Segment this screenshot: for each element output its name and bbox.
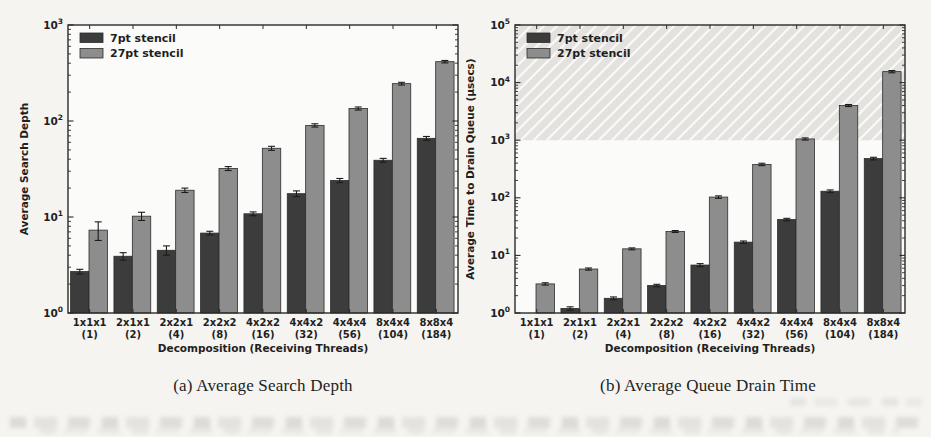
y-tick-label: 101	[490, 247, 510, 261]
x-tick-label: 4x4x2	[289, 317, 323, 328]
legend-swatch	[527, 49, 550, 59]
bar-7pt-stencil-8x4x4	[821, 191, 839, 313]
y-axis-label: Average Time to Drain Queue (µsecs)	[466, 58, 476, 279]
x-tick-label: 2x2x1	[606, 317, 640, 328]
y-tick-label: 101	[43, 209, 63, 223]
caption-b: (b) Average Queue Drain Time	[485, 373, 931, 399]
x-tick-label: 8x8x4	[419, 317, 453, 328]
x-tick-sublabel: (16)	[698, 329, 721, 340]
x-axis-label: Decomposition (Receiving Threads)	[158, 342, 368, 354]
x-tick-label: 2x2x2	[203, 317, 237, 328]
bar-7pt-stencil-2x2x2	[201, 233, 219, 313]
x-tick-sublabel: (184)	[421, 329, 451, 340]
y-axis-label: Average Search Depth	[18, 103, 30, 235]
bar-27pt-stencil-2x2x2	[219, 169, 237, 313]
x-tick-label: 2x1x1	[563, 317, 597, 328]
x-tick-sublabel: (4)	[168, 329, 184, 340]
bar-27pt-stencil-4x4x2	[753, 164, 771, 313]
bar-27pt-stencil-4x4x4	[796, 139, 814, 313]
x-tick-sublabel: (56)	[338, 329, 361, 340]
legend-swatch	[527, 33, 550, 43]
chart-a-canvas: 1001011021031x1x1(1)2x1x1(2)2x2x1(4)2x2x…	[0, 0, 466, 372]
legend-label: 27pt stencil	[110, 47, 183, 60]
bar-27pt-stencil-8x8x4	[883, 72, 901, 313]
bar-7pt-stencil-8x8x4	[417, 138, 435, 313]
bar-7pt-stencil-2x2x1	[604, 298, 622, 313]
bar-7pt-stencil-4x2x2	[244, 214, 262, 313]
x-tick-label: 2x2x1	[159, 317, 193, 328]
legend-label: 27pt stencil	[557, 47, 630, 60]
x-tick-label: 8x4x4	[376, 317, 410, 328]
bar-7pt-stencil-4x4x4	[778, 220, 796, 313]
x-tick-label: 4x2x2	[693, 317, 727, 328]
x-tick-label: 8x8x4	[866, 317, 900, 328]
bar-27pt-stencil-4x4x2	[306, 125, 324, 313]
bar-7pt-stencil-1x1x1	[71, 272, 89, 313]
scan-bleedthrough-smudge	[790, 398, 922, 406]
chart-b-canvas: 1001011021031041051x1x1(1)2x1x1(2)2x2x1(…	[466, 0, 931, 372]
bar-7pt-stencil-2x2x1	[157, 250, 175, 313]
scanned-paper-figure: 1001011021031x1x1(1)2x1x1(2)2x2x1(4)2x2x…	[0, 0, 931, 437]
bar-27pt-stencil-2x2x1	[623, 249, 641, 313]
x-tick-label: 2x2x2	[650, 317, 684, 328]
legend-swatch	[80, 33, 103, 43]
bar-7pt-stencil-8x8x4	[864, 159, 882, 313]
bar-7pt-stencil-2x1x1	[114, 256, 132, 313]
bar-27pt-stencil-1x1x1	[536, 284, 554, 313]
y-tick-label: 104	[490, 75, 510, 89]
y-tick-label: 102	[490, 190, 510, 204]
bar-7pt-stencil-2x2x2	[648, 286, 666, 313]
y-tick-label: 100	[43, 305, 63, 319]
bar-7pt-stencil-4x2x2	[691, 265, 709, 313]
bar-7pt-stencil-4x4x2	[734, 242, 752, 313]
x-tick-label: 4x2x2	[246, 317, 280, 328]
x-tick-label: 8x4x4	[823, 317, 857, 328]
chart-a-average-search-depth: 1001011021031x1x1(1)2x1x1(2)2x2x1(4)2x2x…	[0, 0, 466, 372]
x-tick-label: 4x4x2	[736, 317, 770, 328]
x-tick-sublabel: (16)	[251, 329, 274, 340]
caption-a: (a) Average Search Depth	[38, 373, 488, 399]
bar-27pt-stencil-4x2x2	[709, 197, 727, 313]
x-tick-sublabel: (32)	[295, 329, 318, 340]
x-tick-sublabel: (184)	[868, 329, 898, 340]
bar-27pt-stencil-2x2x1	[176, 190, 194, 313]
x-tick-sublabel: (2)	[572, 329, 588, 340]
x-tick-label: 1x1x1	[520, 317, 554, 328]
bar-27pt-stencil-8x8x4	[436, 62, 454, 313]
x-tick-label: 2x1x1	[116, 317, 150, 328]
chart-b-queue-drain-time: 1001011021031041051x1x1(1)2x1x1(2)2x2x1(…	[466, 0, 931, 372]
x-tick-sublabel: (8)	[659, 329, 675, 340]
bar-27pt-stencil-8x4x4	[392, 84, 410, 313]
legend-swatch	[80, 49, 103, 59]
y-tick-label: 105	[490, 17, 510, 31]
x-axis-label: Decomposition (Receiving Threads)	[605, 342, 815, 354]
bar-27pt-stencil-2x1x1	[132, 216, 150, 313]
x-tick-label: 4x4x4	[333, 317, 367, 328]
bar-27pt-stencil-8x4x4	[839, 106, 857, 313]
x-tick-sublabel: (32)	[742, 329, 765, 340]
y-tick-label: 103	[490, 132, 510, 146]
y-tick-label: 100	[490, 305, 510, 319]
bar-7pt-stencil-4x4x2	[287, 194, 305, 313]
legend-label: 7pt stencil	[110, 32, 176, 45]
x-tick-sublabel: (104)	[825, 329, 855, 340]
bar-7pt-stencil-4x4x4	[331, 180, 349, 313]
x-tick-sublabel: (1)	[529, 329, 545, 340]
x-tick-sublabel: (2)	[125, 329, 141, 340]
x-tick-sublabel: (104)	[378, 329, 408, 340]
y-tick-label: 102	[43, 113, 63, 127]
x-tick-sublabel: (8)	[212, 329, 228, 340]
bar-27pt-stencil-2x2x2	[666, 231, 684, 313]
x-tick-sublabel: (1)	[82, 329, 98, 340]
bar-27pt-stencil-2x1x1	[579, 269, 597, 313]
bar-27pt-stencil-1x1x1	[89, 230, 107, 313]
x-tick-sublabel: (56)	[785, 329, 808, 340]
y-tick-label: 103	[43, 17, 63, 31]
x-tick-sublabel: (4)	[615, 329, 631, 340]
bar-27pt-stencil-4x4x4	[349, 108, 367, 313]
bar-27pt-stencil-4x2x2	[262, 148, 280, 313]
bar-7pt-stencil-8x4x4	[374, 160, 392, 313]
x-tick-label: 1x1x1	[73, 317, 107, 328]
x-tick-label: 4x4x4	[780, 317, 814, 328]
scan-bleedthrough-line	[40, 428, 900, 434]
